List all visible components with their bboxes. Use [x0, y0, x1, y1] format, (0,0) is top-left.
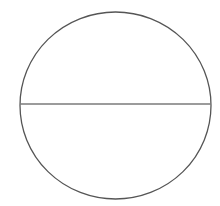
- circle-diagram: [0, 0, 220, 206]
- circle-outline: [20, 12, 211, 199]
